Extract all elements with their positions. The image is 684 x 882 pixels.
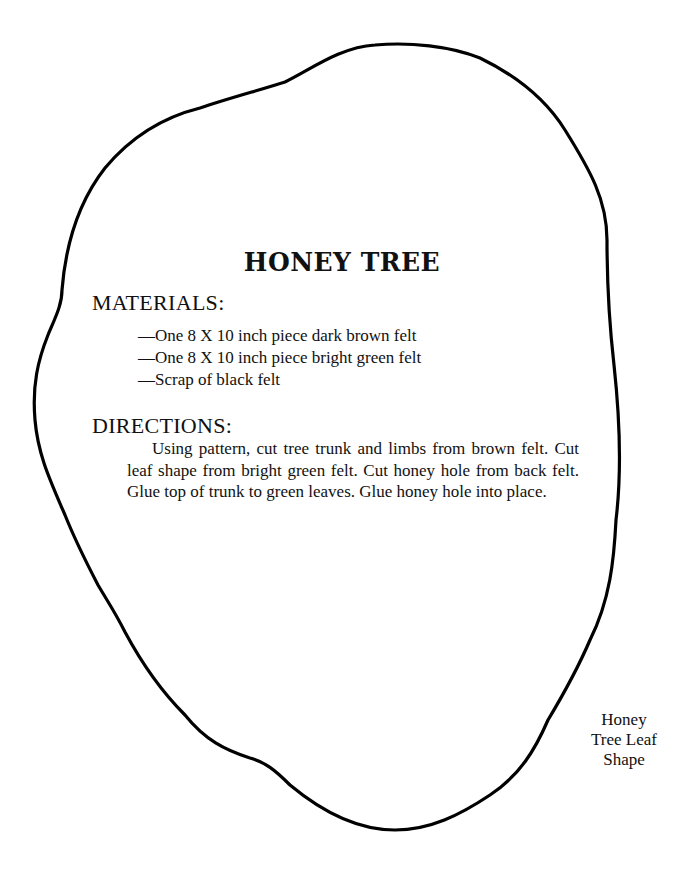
pattern-caption: Honey Tree Leaf Shape — [582, 710, 666, 770]
pattern-caption-line: Shape — [582, 750, 666, 770]
pattern-caption-line: Tree Leaf — [582, 730, 666, 750]
directions-heading: DIRECTIONS: — [92, 413, 232, 439]
materials-list: —One 8 X 10 inch piece dark brown felt —… — [138, 325, 421, 391]
page-title: HONEY TREE — [0, 247, 684, 277]
materials-heading: MATERIALS: — [92, 290, 225, 316]
pattern-caption-line: Honey — [582, 710, 666, 730]
materials-item: —One 8 X 10 inch piece dark brown felt — [138, 325, 421, 347]
materials-item: —One 8 X 10 inch piece bright green felt — [138, 347, 421, 369]
directions-text: Using pattern, cut tree trunk and limbs … — [127, 438, 579, 503]
materials-item: —Scrap of black felt — [138, 369, 421, 391]
